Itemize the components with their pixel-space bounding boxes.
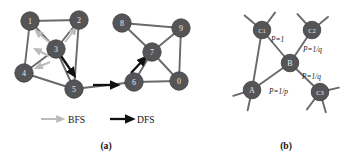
edge-probability-label: P=1/p <box>268 87 288 96</box>
edge-probability-label: P=1 <box>270 35 284 44</box>
legend-label-bfs: BFS <box>68 114 85 125</box>
panel-captions: (a)(b) <box>100 140 291 152</box>
bfs-arrow-icon <box>36 31 50 43</box>
graph-node-label: A <box>249 86 255 95</box>
graph-node-label: 7 <box>150 48 154 57</box>
graph-node-label: 2 <box>77 16 81 25</box>
graph-node-label: C2 <box>308 27 316 34</box>
graph-node-label: 9 <box>179 24 183 33</box>
legend-label-dfs: DFS <box>137 114 155 125</box>
graph-node-label: C1 <box>258 27 266 34</box>
edge-probability-label: P=1/q <box>301 72 321 81</box>
panel-caption: (a) <box>100 140 111 152</box>
graph-node-label: 3 <box>54 45 58 54</box>
figure-container: 1234567890 C1C2BAC3 P=1P=1/qP=1/qP=1/p B… <box>0 0 345 156</box>
graph-node-label: 6 <box>132 78 136 87</box>
figure-canvas: 1234567890 C1C2BAC3 P=1P=1/qP=1/qP=1/p B… <box>0 0 345 156</box>
graph-node-label: C3 <box>316 89 324 96</box>
legend: BFSDFS <box>41 114 155 125</box>
graph-node-label: 4 <box>22 69 26 78</box>
panel-caption: (b) <box>280 140 292 152</box>
edge-probability-label: P=1/q <box>302 45 322 54</box>
graph-node-label: B <box>287 59 292 68</box>
graph-node-label: 8 <box>120 19 124 28</box>
graph-node-label: 0 <box>177 77 181 86</box>
graph-node-label: 5 <box>72 85 76 94</box>
graph-node-label: 1 <box>28 17 32 26</box>
